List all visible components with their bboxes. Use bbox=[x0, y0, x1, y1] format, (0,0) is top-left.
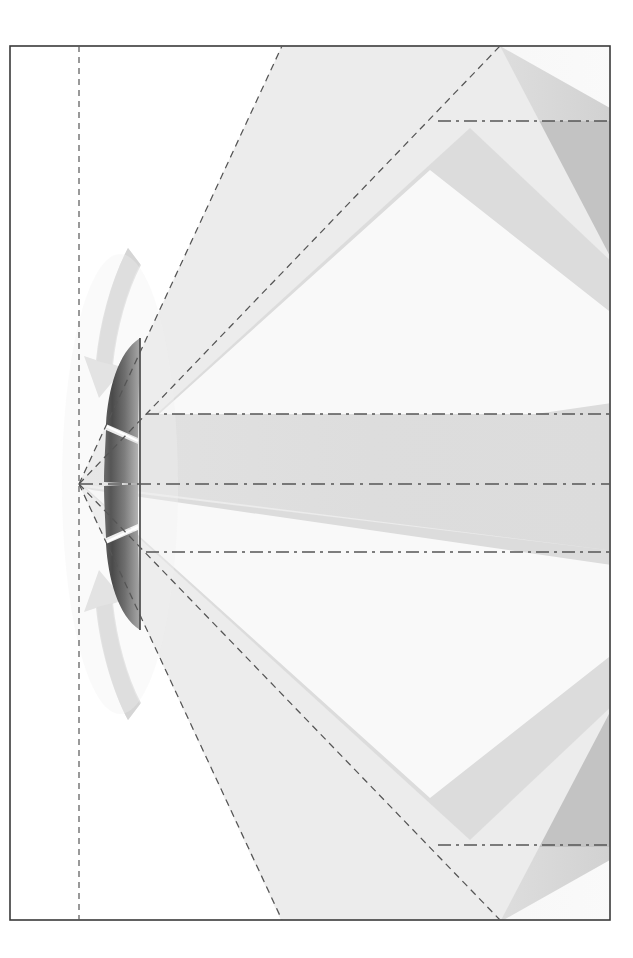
antenna-pattern-diagram bbox=[0, 0, 633, 958]
figure-canvas bbox=[0, 0, 633, 958]
